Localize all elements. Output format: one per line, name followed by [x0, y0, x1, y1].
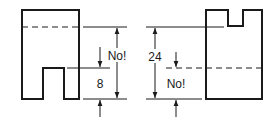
left-figure: No! 8 [22, 10, 130, 117]
dimensioning-diagram: No! 8 24 No! [0, 0, 275, 124]
left-part-outline [22, 10, 79, 99]
right-part-outline [206, 10, 262, 99]
left-dimension-label: 8 [97, 77, 104, 91]
right-warning-label: No! [167, 77, 186, 91]
right-figure: 24 No! [145, 10, 262, 117]
left-warning-label: No! [108, 49, 127, 63]
right-dimension-label: 24 [148, 50, 162, 64]
